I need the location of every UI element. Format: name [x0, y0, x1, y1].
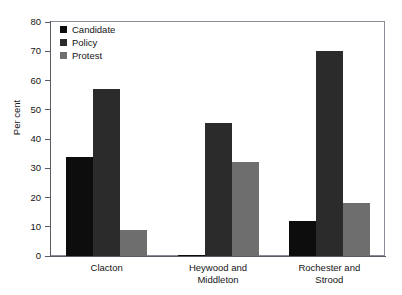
legend-item-candidate: Candidate	[60, 24, 115, 36]
x-axis-group-label-line: Strood	[269, 274, 389, 286]
y-axis-title: Per cent	[11, 88, 22, 148]
bar-policy-2	[316, 51, 343, 256]
y-axis-tick-label: 40	[21, 134, 41, 144]
bar-candidate-1	[178, 255, 205, 257]
legend: CandidatePolicyProtest	[60, 24, 115, 63]
legend-item-protest: Protest	[60, 50, 115, 62]
y-axis-tick-label: 10	[21, 222, 41, 232]
x-axis-group-label: Heywood andMiddleton	[158, 262, 278, 285]
bar-candidate-2	[289, 221, 316, 256]
bar-chart: 01020304050607080 Per cent ClactonHeywoo…	[0, 0, 402, 295]
y-axis-tick-label: 50	[21, 105, 41, 115]
bar-protest-2	[343, 203, 370, 256]
y-axis-tick	[45, 139, 50, 140]
y-axis-tick	[45, 80, 50, 81]
x-axis-group-label-line: Heywood and	[158, 262, 278, 274]
legend-label: Protest	[72, 51, 102, 61]
y-axis-tick-label: 80	[21, 17, 41, 27]
legend-label: Policy	[72, 38, 97, 48]
y-axis-tick	[45, 51, 50, 52]
x-axis-group-label-line: Middleton	[158, 274, 278, 286]
y-axis-tick-label: 70	[21, 46, 41, 56]
bar-candidate-0	[66, 157, 93, 256]
legend-label: Candidate	[72, 25, 115, 35]
y-axis-tick-label: 20	[21, 193, 41, 203]
bar-protest-0	[120, 230, 147, 256]
y-axis-tick	[45, 22, 50, 23]
x-axis-group-label: Rochester andStrood	[269, 262, 389, 285]
legend-swatch-icon	[60, 39, 67, 46]
x-axis-group-label: Clacton	[47, 262, 167, 274]
bar-policy-1	[205, 123, 232, 256]
y-axis-tick	[45, 109, 50, 110]
bar-protest-1	[232, 162, 259, 256]
y-axis-tick	[45, 168, 50, 169]
x-axis-group-label-line: Rochester and	[269, 262, 389, 274]
x-axis-group-label-line: Clacton	[47, 262, 167, 274]
y-axis-tick-label: 0	[21, 251, 41, 261]
y-axis-tick-label: 60	[21, 76, 41, 86]
legend-swatch-icon	[60, 26, 67, 33]
y-axis-tick-label: 30	[21, 163, 41, 173]
bar-policy-0	[93, 89, 120, 256]
legend-item-policy: Policy	[60, 37, 115, 49]
y-axis-tick	[45, 226, 50, 227]
x-axis-line	[50, 256, 386, 257]
y-axis-tick	[45, 197, 50, 198]
legend-swatch-icon	[60, 52, 67, 59]
